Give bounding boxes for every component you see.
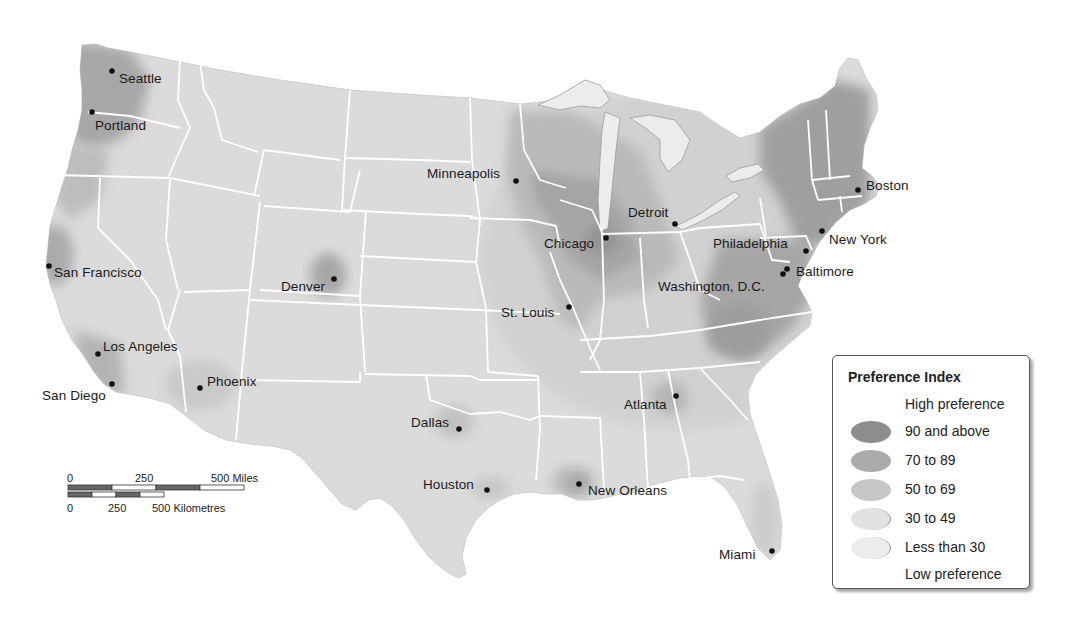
legend-swatch-50-69 <box>851 479 891 501</box>
city-label-los-angeles: Los Angeles <box>103 340 178 354</box>
legend-label-70-89: 70 to 89 <box>905 452 956 468</box>
city-dot-new-york <box>819 228 825 234</box>
scale-miles-mid: 250 <box>135 472 153 484</box>
city-label-san-diego: San Diego <box>42 389 106 403</box>
scale-km-zero: 0 <box>67 502 73 514</box>
legend-swatch-less-30 <box>851 537 891 559</box>
city-label-atlanta: Atlanta <box>624 398 667 412</box>
city-dot-boston <box>855 187 861 193</box>
city-dot-houston <box>484 487 490 493</box>
city-dot-detroit <box>672 221 678 227</box>
city-label-phoenix: Phoenix <box>207 375 257 389</box>
scale-miles-zero: 0 <box>67 472 73 484</box>
city-dot-chicago <box>603 235 609 241</box>
city-dot-denver <box>331 276 337 282</box>
scale-km-end: 500 Kilometres <box>152 502 225 514</box>
legend-swatch-90-above <box>851 421 891 443</box>
city-label-san-francisco: San Francisco <box>54 266 142 280</box>
legend-label-30-49: 30 to 49 <box>905 510 956 526</box>
city-label-st-louis: St. Louis <box>501 306 554 320</box>
city-dot-miami <box>769 548 775 554</box>
city-dot-st-louis <box>566 304 572 310</box>
city-dot-new-orleans <box>576 481 582 487</box>
scale-miles-end: 500 Miles <box>211 472 258 484</box>
city-label-philadelphia: Philadelphia <box>713 237 788 251</box>
scale-bar <box>68 485 244 497</box>
city-label-miami: Miami <box>719 548 756 562</box>
legend-label-90-above: 90 and above <box>905 423 990 439</box>
city-label-denver: Denver <box>281 280 325 294</box>
city-label-new-york: New York <box>829 233 887 247</box>
city-label-minneapolis: Minneapolis <box>427 167 500 181</box>
legend-low-label: Low preference <box>905 566 1002 582</box>
city-dot-los-angeles <box>95 351 101 357</box>
city-label-new-orleans: New Orleans <box>588 484 667 498</box>
city-label-chicago: Chicago <box>544 237 594 251</box>
legend-high-label: High preference <box>905 396 1005 412</box>
legend-swatch-70-89 <box>851 450 891 472</box>
legend: Preference Index High preference 90 and … <box>832 355 1030 589</box>
city-label-seattle: Seattle <box>119 72 162 86</box>
city-dot-dallas <box>456 426 462 432</box>
city-dot-minneapolis <box>513 178 519 184</box>
city-dot-seattle <box>109 68 115 74</box>
legend-title: Preference Index <box>848 369 961 385</box>
city-label-houston: Houston <box>423 478 474 492</box>
legend-swatch-30-49 <box>851 508 891 530</box>
scale-km-mid: 250 <box>108 502 126 514</box>
city-label-baltimore: Baltimore <box>796 265 854 279</box>
city-label-boston: Boston <box>866 179 909 193</box>
city-dot-portland <box>89 109 95 115</box>
city-label-dallas: Dallas <box>411 416 449 430</box>
legend-label-50-69: 50 to 69 <box>905 481 956 497</box>
city-dot-phoenix <box>197 385 203 391</box>
city-dot-san-diego <box>109 381 115 387</box>
city-dot-baltimore <box>784 266 790 272</box>
city-label-detroit: Detroit <box>628 206 668 220</box>
city-dot-philadelphia <box>803 248 809 254</box>
city-dot-atlanta <box>673 393 679 399</box>
city-label-portland: Portland <box>95 119 146 133</box>
city-dot-san-francisco <box>46 263 52 269</box>
city-label-washington-d-c-: Washington, D.C. <box>658 280 765 294</box>
legend-label-less-30: Less than 30 <box>905 539 985 555</box>
city-dot-washington-d-c- <box>780 271 786 277</box>
